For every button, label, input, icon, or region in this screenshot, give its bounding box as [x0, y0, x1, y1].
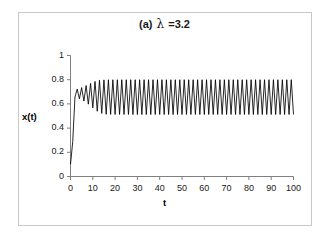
y-tick-label: 0.6 — [30, 98, 64, 108]
y-tick-label: 1 — [30, 50, 64, 60]
data-series-line — [71, 80, 294, 165]
x-axis-label: t — [0, 197, 329, 208]
x-tick-label: 100 — [279, 183, 309, 193]
y-axis-label: x(t) — [22, 111, 37, 122]
y-tick-label: 0.4 — [30, 122, 64, 132]
y-tick-label: 0 — [30, 171, 64, 181]
y-tick-label: 0.8 — [30, 74, 64, 84]
y-tick-label: 0.2 — [30, 146, 64, 156]
figure-panel: (a) λ =3.2 x(t) t 00.20.40.60.81 0102030… — [0, 0, 329, 240]
